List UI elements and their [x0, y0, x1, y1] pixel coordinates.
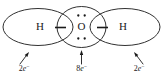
atom-label-oxygen-center: O — [78, 20, 86, 32]
electron-shell-diagram: H O H 2e− 8e− — [0, 0, 163, 78]
callout-label-center: 8e− — [76, 63, 87, 73]
callout-label-left: 2e− — [19, 63, 30, 73]
callout-label-right: 2e− — [134, 63, 145, 73]
diagram-canvas: H O H 2e− 8e− — [0, 0, 163, 78]
callout-arrow-center-head — [80, 50, 83, 55]
callout-center-charge: − — [84, 63, 87, 69]
lone-pair-top-dot-left — [77, 14, 79, 16]
lone-pair-top-dot-right — [84, 14, 86, 16]
callout-label-group: 2e− 8e− 2e− — [19, 63, 145, 73]
atom-label-hydrogen-left: H — [36, 20, 44, 32]
lone-pair-bottom-dot-right — [84, 37, 86, 39]
callout-arrow-group — [20, 50, 143, 64]
callout-right-charge: − — [141, 63, 144, 69]
atom-label-group: H O H — [36, 20, 127, 32]
callout-left-charge: − — [26, 63, 29, 69]
lone-pair-bottom-dot-left — [77, 37, 79, 39]
callout-arrow-center — [80, 50, 83, 64]
atom-label-hydrogen-right: H — [119, 20, 127, 32]
